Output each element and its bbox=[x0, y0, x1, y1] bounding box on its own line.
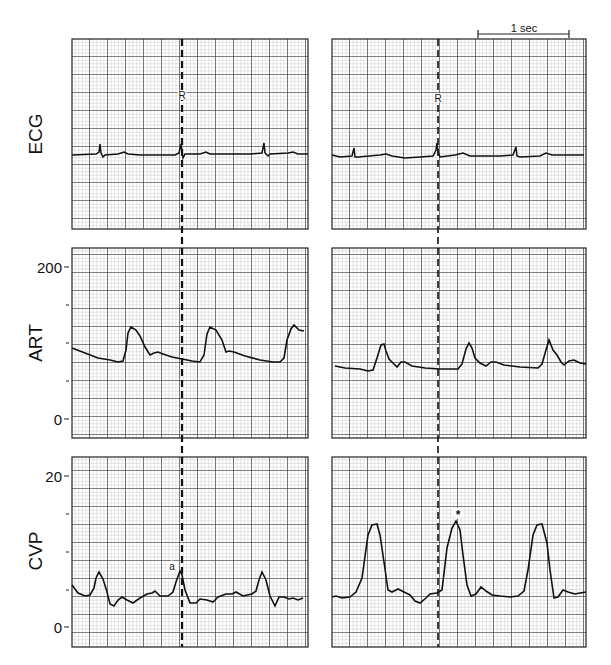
hemodynamic-strip-figure: ECG ART CVP 200 0 20 0 1 sec R R bbox=[0, 0, 611, 665]
row-label-ecg: ECG bbox=[25, 113, 46, 154]
art-tick-200: 200 bbox=[37, 259, 62, 276]
scale-bar-label: 1 sec bbox=[511, 22, 538, 34]
row-label-art: ART bbox=[25, 324, 46, 362]
svg-text:R: R bbox=[178, 90, 185, 101]
row-label-cvp: CVP bbox=[25, 531, 46, 570]
panel-ecg-right bbox=[332, 39, 586, 229]
art-y-axis bbox=[64, 267, 69, 419]
panel-ecg-left bbox=[72, 39, 308, 229]
annotation-r-left: R bbox=[177, 90, 187, 101]
panel-art-left bbox=[72, 248, 308, 438]
art-tick-0: 0 bbox=[54, 411, 62, 428]
svg-text:*: * bbox=[456, 508, 461, 522]
cvp-tick-0: 0 bbox=[54, 619, 62, 636]
annotation-r-right: R bbox=[433, 93, 443, 104]
svg-text:R: R bbox=[434, 93, 441, 104]
panel-cvp-left bbox=[72, 457, 308, 647]
cvp-y-axis bbox=[64, 476, 69, 627]
cvp-tick-20: 20 bbox=[45, 468, 62, 485]
svg-text:a: a bbox=[169, 561, 175, 572]
